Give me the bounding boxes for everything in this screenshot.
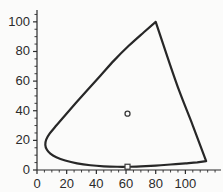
y-axis-tick-labels: 020406080100 <box>8 14 30 177</box>
data-markers <box>125 111 130 169</box>
plot-canvas: 020406080100 020406080100 <box>0 0 223 192</box>
y-tick-label: 60 <box>16 73 30 88</box>
x-tick-label: 80 <box>148 176 162 191</box>
x-tick-label: 100 <box>175 176 197 191</box>
x-tick-label: 20 <box>59 176 73 191</box>
y-tick-label: 20 <box>16 132 30 147</box>
baseline-square-marker <box>125 164 130 169</box>
y-tick-label: 100 <box>8 14 30 29</box>
x-tick-label: 60 <box>119 176 133 191</box>
interior-circle-marker <box>125 111 130 116</box>
y-tick-label: 80 <box>16 43 30 58</box>
y-tick-label: 0 <box>23 162 30 177</box>
chart-figure: 020406080100 020406080100 <box>0 0 223 192</box>
x-axis-tick-labels: 020406080100 <box>33 176 196 191</box>
boundary-curve <box>45 22 206 167</box>
axes-group <box>37 10 221 170</box>
x-tick-label: 0 <box>33 176 40 191</box>
y-tick-label: 40 <box>16 103 30 118</box>
x-tick-label: 40 <box>89 176 103 191</box>
